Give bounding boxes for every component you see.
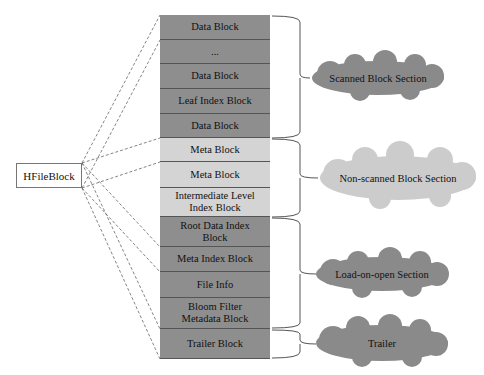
block-row: Data Block [160, 114, 270, 138]
block-label: Meta Index Block [177, 253, 253, 265]
block-row: Data Block [160, 64, 270, 89]
block-label: Meta Block [190, 144, 239, 156]
block-row: ... [160, 40, 270, 64]
block-label: Meta Block [190, 169, 239, 181]
block-label: ... [211, 46, 219, 58]
section-label-trailer: Trailer [316, 333, 448, 353]
dashed-connectors [82, 15, 160, 359]
block-label: Bloom Filter Metadata Block [160, 301, 270, 325]
block-row: Leaf Index Block [160, 89, 270, 114]
block-row: Meta Block [160, 138, 270, 162]
block-label: Data Block [191, 120, 239, 132]
block-row: Meta Index Block [160, 247, 270, 272]
block-row: Bloom Filter Metadata Block [160, 298, 270, 329]
block-row: Data Block [160, 15, 270, 40]
section-label-non-scanned: Non-scanned Block Section [320, 168, 476, 188]
block-label: Data Block [191, 70, 239, 82]
section-label-load-on-open: Load-on-open Section [316, 264, 448, 284]
block-row: Intermediate Level Index Block [160, 188, 270, 217]
block-label: Intermediate Level Index Block [160, 190, 270, 214]
hfileblock-box: HFileBlock [16, 163, 82, 188]
block-label: Root Data Index Block [160, 220, 270, 244]
section-label-scanned: Scanned Block Section [312, 68, 444, 88]
block-row: Meta Block [160, 162, 270, 188]
block-row: Root Data Index Block [160, 217, 270, 247]
hfileblock-label: HFileBlock [23, 170, 74, 182]
block-label: Data Block [191, 21, 239, 33]
block-label: File Info [197, 279, 233, 291]
block-label: Leaf Index Block [178, 95, 251, 107]
block-label: Trailer Block [187, 338, 243, 350]
block-row: File Info [160, 272, 270, 298]
block-row: Trailer Block [160, 329, 270, 359]
